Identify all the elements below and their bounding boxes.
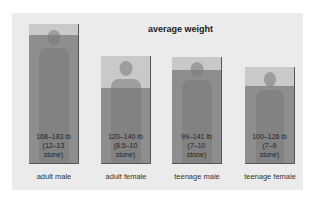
label-teenage-female: teenage female (230, 172, 310, 181)
weight-value: 168–183 lb (12–13 stone) (29, 132, 78, 159)
label-teenage-male: teenage male (157, 172, 237, 181)
weight-value: 120–140 lb (8.5–10 stone) (101, 132, 150, 159)
figure-adult-female: 120–140 lb (8.5–10 stone) (101, 56, 151, 164)
figure-teenage-female: 100–126 lb (7–9 stone) (245, 67, 295, 164)
figure-teenage-male: 99–141 lb (7–10 stone) (172, 57, 222, 164)
weight-value: 99–141 lb (7–10 stone) (172, 132, 221, 159)
label-adult-male: adult male (14, 172, 94, 181)
weight-value: 100–126 lb (7–9 stone) (245, 132, 294, 159)
figure-adult-male: 168–183 lb (12–13 stone) (29, 24, 79, 164)
label-adult-female: adult female (86, 172, 166, 181)
